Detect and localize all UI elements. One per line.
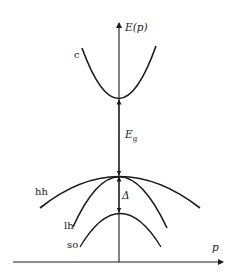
split-off-label: Δ xyxy=(121,189,130,201)
band-gap-subscript: g xyxy=(133,135,138,143)
p-axis-label: p xyxy=(212,241,219,253)
split-off-band-curve xyxy=(80,214,161,248)
band-gap-label: Eg xyxy=(124,128,138,143)
heavy-hole-band-label: hh xyxy=(35,186,48,197)
split-off-band-label: so xyxy=(67,239,78,250)
light-hole-band-curve xyxy=(73,177,167,228)
heavy-hole-band-curve xyxy=(40,177,200,209)
energy-axis-label: E(p) xyxy=(124,21,148,33)
band-gap-symbol: E xyxy=(124,128,133,140)
conduction-band-label: c xyxy=(74,49,80,60)
light-hole-band-label: lh xyxy=(64,220,74,231)
band-structure-diagram: E(p) p c hh lh so Eg Δ xyxy=(0,0,234,276)
